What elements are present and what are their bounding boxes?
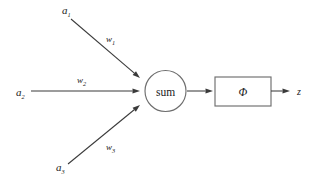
input-label-a1: a1 <box>62 4 71 18</box>
input-label-a1-subscript: 1 <box>68 11 71 18</box>
neuron-diagram-canvas: sum Φ z a1w1a2w2a3w3 <box>0 0 316 182</box>
sum-to-activation-connector-group <box>187 88 213 93</box>
input-label-a3: a3 <box>56 161 65 175</box>
weight-label-w3-subscript: 3 <box>111 147 115 154</box>
summation-label: sum <box>156 86 175 98</box>
sum-to-activation-arrowhead <box>206 88 214 93</box>
input-edge-a3-line <box>68 110 134 164</box>
weight-label-w1: w1 <box>106 34 115 46</box>
summation-node-group: sum <box>145 71 186 112</box>
input-label-a2-subscript: 2 <box>22 93 26 100</box>
output-label: z <box>296 86 301 97</box>
output-edge-arrowhead <box>283 88 291 93</box>
weight-label-w1-subscript: 1 <box>112 39 115 46</box>
activation-node-group: Φ <box>215 77 271 106</box>
weight-label-w2-subscript: 2 <box>83 80 87 87</box>
input-edge-a1-line <box>71 19 134 73</box>
neuron-diagram-svg: sum Φ z a1w1a2w2a3w3 <box>0 0 316 182</box>
input-edges-group <box>31 19 140 164</box>
input-edge-a2-arrowhead <box>133 88 141 93</box>
weight-label-w2: w2 <box>77 75 87 87</box>
activation-function-label: Φ <box>239 86 248 98</box>
input-label-a3-subscript: 3 <box>61 168 65 175</box>
output-edge-group <box>271 88 290 93</box>
input-labels-group: a1w1a2w2a3w3 <box>16 4 115 175</box>
weight-label-w3: w3 <box>106 142 115 154</box>
input-label-a2: a2 <box>16 86 26 100</box>
